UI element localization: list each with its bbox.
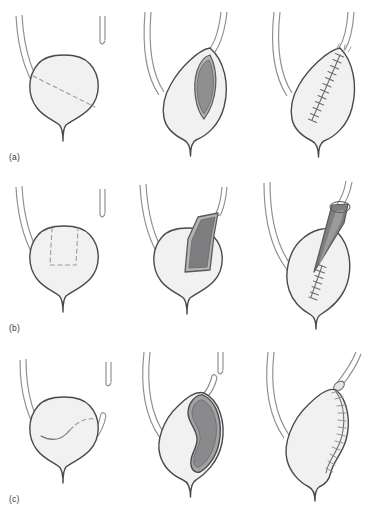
- bladder-outline: [30, 226, 98, 312]
- ureter-right: [339, 12, 354, 50]
- ureter-stub-far-right: [218, 352, 223, 374]
- panel-c3-illustration: [252, 342, 377, 513]
- figure-row-c: (c): [0, 342, 377, 513]
- panel-b2-illustration: [126, 171, 251, 342]
- panel-a2-illustration: [126, 0, 251, 171]
- panel-b1: [0, 171, 125, 342]
- ureter-left: [264, 182, 293, 271]
- ureter-right: [209, 12, 227, 52]
- figure-root: (a): [0, 0, 377, 513]
- bladder-outline: [163, 48, 226, 156]
- panel-c2-illustration: [126, 342, 251, 513]
- panel-c1-illustration: [0, 342, 125, 513]
- row-label-a: (a): [9, 152, 20, 162]
- bladder-outline: [291, 48, 354, 157]
- figure-row-b: (b): [0, 171, 377, 342]
- panel-c3: [252, 342, 377, 513]
- ureter-left: [267, 352, 289, 438]
- bladder-outline: [287, 229, 350, 329]
- panel-c2: [126, 342, 251, 513]
- panel-a1-illustration: [0, 0, 125, 171]
- panel-b1-illustration: [0, 171, 125, 342]
- ureter-stub-right: [100, 16, 105, 44]
- ureter-stub-right: [100, 189, 105, 217]
- bladder-outline: [30, 397, 98, 483]
- ureter-stub-right: [216, 187, 227, 215]
- panel-a1: [0, 0, 125, 171]
- bladder-outline: [30, 55, 98, 141]
- panel-b3: [252, 171, 377, 342]
- panel-b3-illustration: [252, 171, 377, 342]
- ureter-left: [143, 352, 165, 438]
- ureter-left: [273, 12, 292, 96]
- panel-b2: [126, 171, 251, 342]
- figure-row-a: (a): [0, 0, 377, 171]
- panel-a3: [252, 0, 377, 171]
- panel-a2: [126, 0, 251, 171]
- panel-c1: [0, 342, 125, 513]
- ureter-left: [144, 12, 164, 95]
- panel-a3-illustration: [252, 0, 377, 171]
- ureter-stub-far-right: [106, 362, 111, 386]
- row-label-c: (c): [9, 494, 20, 504]
- row-label-b: (b): [9, 323, 20, 333]
